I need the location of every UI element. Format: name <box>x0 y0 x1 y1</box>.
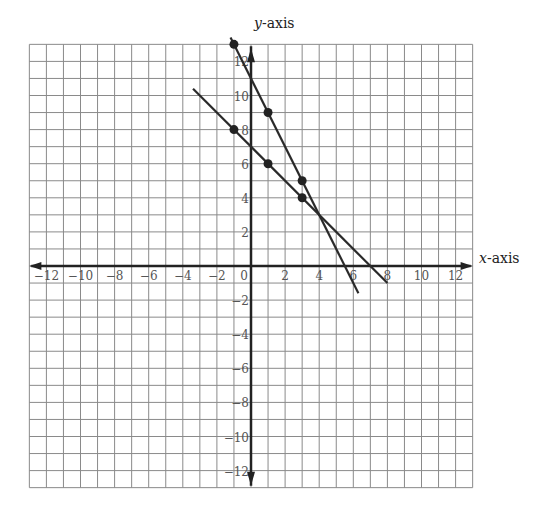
y-axis-label: y-axis <box>253 15 295 31</box>
x-axis-label: x-axis <box>479 250 520 266</box>
x-tick-label: −2 <box>208 269 226 283</box>
data-point <box>229 125 238 134</box>
x-tick-label: −4 <box>174 269 192 283</box>
y-tick-label: 10 <box>234 90 249 104</box>
y-tick-label: −2 <box>231 294 249 308</box>
plotted-lines <box>193 38 387 294</box>
x-tick-label: 0 <box>240 269 248 283</box>
x-tick-label: 4 <box>315 269 323 283</box>
data-point <box>264 108 273 117</box>
plotted-line-1 <box>231 38 359 294</box>
coordinate-plane: −12−10−8−6−4−2024681012−12−10−8−6−4−2246… <box>0 0 548 511</box>
x-tick-label: 10 <box>414 269 429 283</box>
y-tick-label: 6 <box>241 158 249 172</box>
y-tick-label: 8 <box>241 124 249 138</box>
data-point <box>229 40 238 49</box>
x-tick-label: 2 <box>281 269 289 283</box>
plotted-line-2 <box>193 89 387 283</box>
x-tick-label: −10 <box>68 269 93 283</box>
x-tick-label: −6 <box>140 269 158 283</box>
y-tick-label: −12 <box>224 465 249 479</box>
data-point <box>264 159 273 168</box>
x-tick-label: 12 <box>448 269 463 283</box>
y-tick-label: −8 <box>231 396 249 410</box>
y-tick-label: 2 <box>241 226 249 240</box>
x-tick-label: −12 <box>34 269 59 283</box>
y-tick-label: 4 <box>241 192 249 206</box>
y-tick-label: −4 <box>231 328 249 342</box>
y-tick-label: −6 <box>231 362 249 376</box>
y-tick-label: −10 <box>224 431 249 445</box>
data-point <box>298 176 307 185</box>
data-point <box>298 193 307 202</box>
x-tick-label: −8 <box>106 269 124 283</box>
